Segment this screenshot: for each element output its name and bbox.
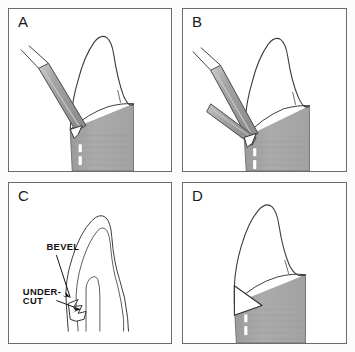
panel-letter-b: B [192,14,202,29]
panel-d: D [182,182,347,344]
bevel-label: BEVEL [47,242,80,252]
panel-d-illustration [183,183,346,343]
panel-a-illustration [9,9,171,171]
panel-letter-d: D [192,188,203,203]
root-highlight-slit-upper [79,144,82,152]
panel-b-illustration [183,9,346,171]
panel-a: A [8,8,172,172]
figure-root: A [0,0,355,352]
panel-c-illustration: BEVEL UNDER- CUT [9,183,171,343]
panel-letter-c: C [18,188,29,203]
undercut-label-line1: UNDER- [23,287,61,297]
root-highlight-slit-lower [79,156,82,165]
root-highlight-slit-lower [253,160,256,169]
panel-c: BEVEL UNDER- CUT C [8,182,172,344]
undercut-label-line2: CUT [23,296,43,306]
panel-letter-a: A [18,14,28,29]
root-highlight-slit-upper [244,314,247,322]
panel-b: B [182,8,347,172]
root-highlight-slit-upper [253,148,256,156]
root-highlight-slit-lower [244,326,247,335]
